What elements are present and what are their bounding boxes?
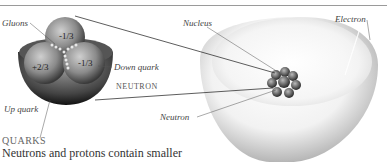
neutron-caption: NEUTRON	[116, 82, 158, 91]
down-quark-label: Down quark	[114, 62, 159, 72]
quark-charge-top: -1/3	[59, 31, 74, 41]
neutron-label: Neutron	[160, 112, 189, 122]
caption-text: Neutrons and protons contain smaller	[2, 146, 182, 161]
up-quark-label: Up quark	[4, 104, 38, 114]
nucleus-label: Nucleus	[183, 18, 212, 28]
quark-charge-right: -1/3	[78, 58, 93, 68]
caption-title: QUARKS	[2, 135, 46, 146]
gluons-label: Gluons	[2, 18, 28, 28]
quark-charge-left: +2/3	[32, 62, 49, 72]
electron-label: Electron	[335, 14, 366, 24]
